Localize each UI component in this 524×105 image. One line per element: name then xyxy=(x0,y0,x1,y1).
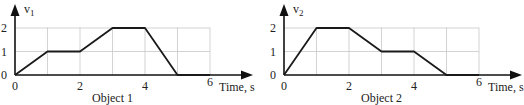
x-axis-arrow-icon xyxy=(241,71,253,80)
x-tick-label: 0 xyxy=(281,79,287,93)
chart-2: 0120246v2Time, sObject 2 xyxy=(270,2,524,105)
y-axis-arrow-icon xyxy=(11,4,20,16)
x-axis-label: Time, s xyxy=(488,80,524,94)
x-tick-label: 6 xyxy=(207,75,213,89)
chart-1: 0120246v1Time, sObject 1 xyxy=(1,2,255,105)
x-tick-label: 4 xyxy=(411,79,417,93)
x-axis-arrow-icon xyxy=(510,71,522,80)
x-tick-label: 0 xyxy=(12,79,18,93)
chart-title: Object 1 xyxy=(92,91,133,105)
y-tick-label: 0 xyxy=(1,68,7,82)
x-tick-label: 2 xyxy=(346,79,352,93)
y-axis-label: v1 xyxy=(24,2,35,18)
y-tick-label: 2 xyxy=(270,21,276,35)
x-tick-label: 4 xyxy=(142,79,148,93)
grid xyxy=(15,28,210,76)
x-tick-label: 6 xyxy=(476,75,482,89)
y-tick-label: 0 xyxy=(270,68,276,82)
y-tick-label: 1 xyxy=(270,45,276,59)
y-axis-label: v2 xyxy=(293,2,304,18)
chart-title: Object 2 xyxy=(361,91,402,105)
y-axis-arrow-icon xyxy=(280,4,289,16)
x-axis-label: Time, s xyxy=(219,80,255,94)
y-tick-label: 2 xyxy=(1,21,7,35)
velocity-time-charts: 0120246v1Time, sObject 10120246v2Time, s… xyxy=(0,0,524,105)
y-tick-label: 1 xyxy=(1,45,7,59)
x-tick-label: 2 xyxy=(77,79,83,93)
